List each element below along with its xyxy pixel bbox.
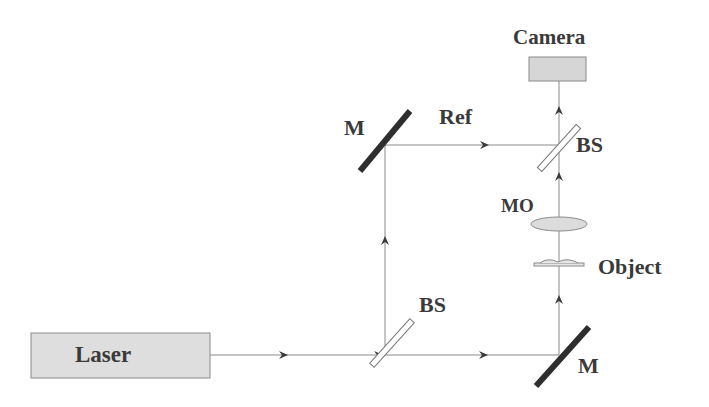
microscope-objective-icon — [531, 217, 587, 231]
beamsplitter-top-label: BS — [576, 134, 603, 156]
mirror-bottom-label: M — [578, 355, 599, 377]
beamsplitter-bottom-label: BS — [419, 294, 446, 316]
camera-box — [529, 57, 586, 81]
beam-arrows — [279, 106, 563, 359]
ref-label: Ref — [439, 106, 472, 128]
mirror-top-label: M — [344, 117, 365, 139]
microscope-objective-label: MO — [501, 196, 534, 215]
camera-label: Camera — [513, 27, 585, 48]
laser-label: Laser — [75, 343, 131, 366]
beam-paths — [210, 81, 559, 355]
beamsplitter-bottom-icon — [370, 319, 415, 368]
object-label: Object — [598, 256, 662, 278]
